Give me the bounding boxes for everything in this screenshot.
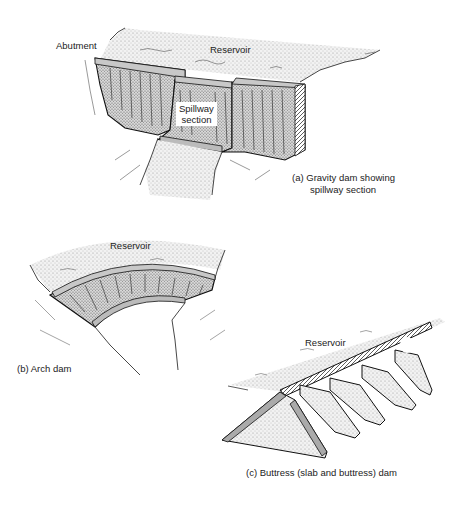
dam-block-right (222, 82, 305, 160)
caption-c: (c) Buttress (slab and buttress) dam (246, 467, 397, 478)
caption-a-line1: (a) Gravity dam showing (292, 172, 395, 183)
label-reservoir-b: Reservoir (110, 240, 151, 251)
label-reservoir-c: Reservoir (305, 337, 346, 348)
label-spillway-line2: section (179, 114, 214, 125)
caption-b: (b) Arch dam (17, 363, 71, 374)
label-spillway-line1: Spillway (179, 103, 214, 114)
label-abutment: Abutment (56, 40, 97, 51)
label-reservoir-a: Reservoir (210, 44, 251, 55)
arch-dam-illustration (30, 240, 225, 375)
label-spillway-section: Spillway section (176, 102, 217, 126)
dam-types-diagram (0, 0, 454, 511)
caption-a-line2: spillway section (310, 184, 376, 195)
